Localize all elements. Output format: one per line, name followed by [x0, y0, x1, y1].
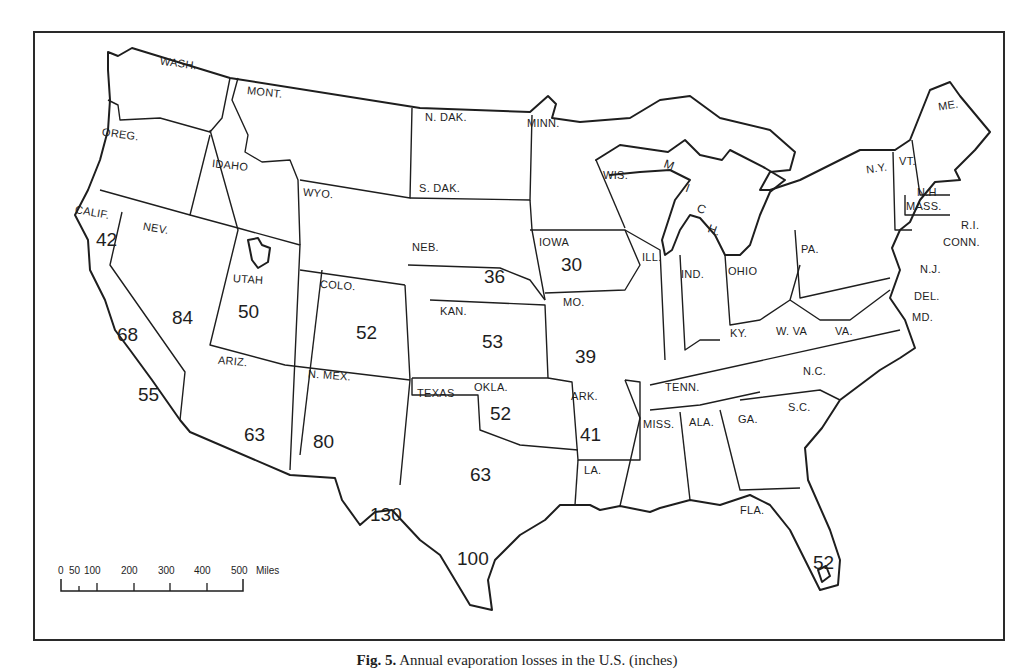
state-label-nj: N.J.	[920, 263, 941, 275]
scale-unit: Miles	[256, 565, 279, 576]
state-label-okla: OKLA.	[474, 381, 508, 393]
state-label-va: VA.	[835, 325, 853, 337]
state-label-ndak: N. DAK.	[425, 111, 467, 123]
scale-tick-400: 400	[194, 565, 211, 576]
state-label-colo: COLO.	[320, 278, 356, 292]
state-label-texas: TEXAS	[417, 387, 455, 399]
figure-caption: Fig. 5. Annual evaporation losses in the…	[0, 652, 1034, 669]
state-label-mo: MO.	[563, 296, 585, 308]
value-okla: 52	[490, 403, 511, 425]
scale-bar-ruler	[58, 577, 318, 607]
state-label-ky: KY.	[730, 327, 747, 339]
value-texas-west: 130	[370, 504, 402, 526]
state-label-tenn: TENN.	[665, 381, 700, 393]
state-label-iowa: IOWA	[539, 236, 569, 248]
state-label-miss: MISS.	[643, 418, 674, 430]
state-label-ariz: ARIZ.	[218, 354, 249, 369]
state-label-nc: N.C.	[803, 365, 826, 377]
state-label-ark: ARK.	[571, 390, 598, 402]
state-label-sdak: S. DAK.	[419, 182, 460, 194]
figure-number: Fig. 5.	[357, 652, 397, 668]
value-utah: 50	[238, 301, 259, 323]
scale-tick-300: 300	[158, 565, 175, 576]
state-label-wis: WIS.	[603, 169, 628, 181]
state-label-ill: ILL.	[642, 251, 662, 263]
scale-tick-100: 100	[84, 565, 101, 576]
value-ariz: 63	[244, 424, 265, 446]
value-texas-south: 100	[457, 548, 489, 570]
state-label-mass: MASS.	[906, 200, 942, 212]
value-calif-north: 42	[96, 229, 117, 251]
state-label-minn: MINN.	[527, 117, 560, 129]
state-label-nh: N.H	[917, 186, 937, 198]
scale-bar: 0 50 100 200 300 400 500 Miles	[58, 565, 318, 605]
state-label-ga: GA.	[738, 413, 758, 425]
state-label-la: LA.	[584, 464, 601, 476]
state-label-ala: ALA.	[689, 416, 714, 428]
scale-tick-200: 200	[121, 565, 138, 576]
state-label-ohio: OHIO	[728, 265, 757, 277]
state-label-del: DEL.	[914, 290, 940, 302]
state-label-pa: PA.	[801, 243, 819, 255]
value-ark: 41	[580, 424, 601, 446]
value-iowa: 30	[561, 254, 582, 276]
value-calif-south: 55	[138, 384, 159, 406]
value-kan: 53	[482, 331, 503, 353]
scale-tick-50: 50	[69, 565, 80, 576]
value-nmex: 80	[313, 431, 334, 453]
state-label-neb: NEB.	[412, 241, 439, 253]
state-label-wyo: WYO.	[303, 186, 334, 201]
value-neb: 36	[484, 266, 505, 288]
scale-tick-0: 0	[58, 565, 64, 576]
state-label-conn: CONN.	[943, 236, 980, 248]
figure-caption-text: Annual evaporation losses in the U.S. (i…	[399, 652, 677, 668]
state-label-sc: S.C.	[788, 401, 811, 413]
value-nev: 84	[172, 307, 193, 329]
value-texas-central: 63	[470, 464, 491, 486]
value-mo: 39	[575, 346, 596, 368]
scale-tick-500: 500	[231, 565, 248, 576]
state-label-ind: IND.	[681, 268, 704, 280]
value-colo: 52	[356, 322, 377, 344]
state-label-md: MD.	[912, 311, 933, 323]
state-label-fla: FLA.	[740, 504, 764, 516]
state-label-utah: UTAH	[233, 272, 264, 286]
value-calif-central: 68	[117, 324, 138, 346]
state-label-ri: R.I.	[961, 219, 979, 231]
state-label-vt: VT.	[899, 155, 916, 167]
value-fla: 52	[813, 552, 834, 574]
state-label-wva: W. VA	[776, 325, 807, 337]
state-label-kan: KAN.	[440, 305, 467, 317]
